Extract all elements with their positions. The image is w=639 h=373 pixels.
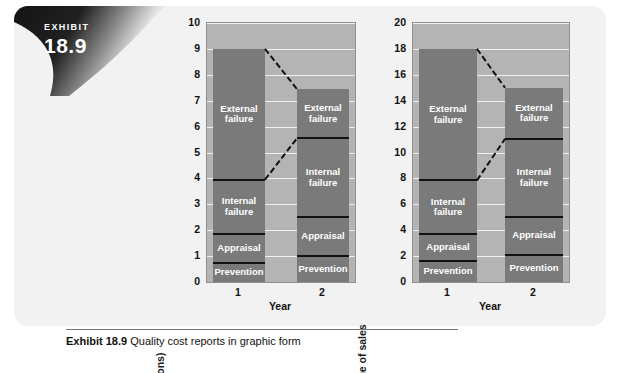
gridline — [207, 23, 355, 24]
segment-label: Internalfailure — [221, 196, 257, 217]
segment-internal-failure: Internalfailure — [297, 138, 349, 217]
y-tick-label: 8 — [378, 172, 406, 182]
bar-year-2: PreventionAppraisalInternalfailureExtern… — [297, 89, 349, 282]
connector-line — [477, 139, 505, 180]
segment-label: Prevention — [297, 264, 348, 275]
segment-external-failure: Externalfailure — [297, 89, 349, 138]
segment-label: Prevention — [422, 266, 473, 277]
y-tick-label: 18 — [378, 43, 406, 53]
y-tick-label: 2 — [172, 224, 200, 234]
y-tick-label: 8 — [172, 69, 200, 79]
segment-label: Appraisal — [511, 230, 556, 241]
y-tick-label: 12 — [378, 121, 406, 131]
bar-year-2: PreventionAppraisalInternalfailureExtern… — [505, 88, 563, 282]
y-tick-label: 1 — [172, 250, 200, 260]
connector-line — [477, 49, 505, 88]
chart-cost-millions: Quality cost (in £millions)PreventionApp… — [150, 22, 360, 321]
y-tick-label: 4 — [378, 224, 406, 234]
segment-label: Prevention — [508, 263, 559, 274]
segment-prevention: Prevention — [297, 256, 349, 282]
x-axis-title: Year — [206, 300, 354, 312]
segment-label: Externalfailure — [303, 103, 343, 124]
plot-area: PreventionAppraisalInternalfailureExtern… — [206, 22, 356, 283]
segment-appraisal: Appraisal — [213, 234, 265, 262]
segment-label: Externalfailure — [514, 103, 554, 124]
bar-year-1: PreventionAppraisalInternalfailureExtern… — [419, 49, 477, 282]
segment-appraisal: Appraisal — [505, 217, 563, 255]
y-tick-label: 6 — [172, 121, 200, 131]
y-tick-label: 6 — [378, 198, 406, 208]
y-tick-label: 14 — [378, 95, 406, 105]
y-tick-label: 4 — [172, 172, 200, 182]
segment-label: Externalfailure — [428, 104, 468, 125]
gridline — [413, 23, 569, 24]
y-tick-label: 16 — [378, 69, 406, 79]
exhibit-page: EXHIBIT 18.9 Quality cost (in £millions)… — [0, 0, 639, 373]
segment-external-failure: Externalfailure — [505, 88, 563, 139]
y-tick-label: 2 — [378, 250, 406, 260]
segment-label: Internalfailure — [305, 167, 341, 188]
segment-internal-failure: Internalfailure — [505, 139, 563, 217]
x-tick-label: 2 — [504, 286, 562, 298]
segment-prevention: Prevention — [213, 263, 265, 282]
connector-line — [265, 49, 297, 89]
x-tick-label: 1 — [212, 286, 264, 298]
y-tick-label: 0 — [172, 276, 200, 286]
segment-label: Appraisal — [216, 243, 261, 254]
y-tick-label: 9 — [172, 43, 200, 53]
segment-external-failure: Externalfailure — [419, 49, 477, 180]
segment-prevention: Prevention — [505, 255, 563, 282]
chart-cost-percent-of-sales: Quality cost as a percentage of salesPre… — [352, 22, 574, 321]
segment-label: Internalfailure — [430, 197, 466, 218]
exhibit-caption: Exhibit 18.9 Quality cost reports in gra… — [66, 334, 546, 349]
segment-appraisal: Appraisal — [419, 234, 477, 261]
segment-label: Appraisal — [300, 231, 345, 242]
segment-external-failure: Externalfailure — [213, 49, 265, 180]
x-tick-label: 1 — [418, 286, 476, 298]
segment-appraisal: Appraisal — [297, 217, 349, 256]
plot-area: PreventionAppraisalInternalfailureExtern… — [412, 22, 570, 283]
caption-text: Quality cost reports in graphic form — [130, 335, 301, 347]
y-tick-label: 5 — [172, 147, 200, 157]
segment-internal-failure: Internalfailure — [419, 180, 477, 234]
segment-label: Externalfailure — [219, 104, 259, 125]
bar-year-1: PreventionAppraisalInternalfailureExtern… — [213, 49, 265, 282]
connector-line — [265, 138, 297, 179]
caption-rule — [66, 329, 458, 330]
y-tick-label: 3 — [172, 198, 200, 208]
segment-internal-failure: Internalfailure — [213, 180, 265, 234]
x-tick-label: 2 — [296, 286, 348, 298]
x-axis-title: Year — [412, 300, 568, 312]
y-tick-label: 20 — [378, 17, 406, 27]
y-tick-label: 0 — [378, 276, 406, 286]
segment-prevention: Prevention — [419, 261, 477, 282]
y-tick-label: 10 — [378, 147, 406, 157]
segment-label: Prevention — [213, 267, 264, 278]
segment-label: Appraisal — [425, 242, 470, 253]
y-tick-label: 7 — [172, 95, 200, 105]
y-tick-label: 10 — [172, 17, 200, 27]
segment-label: Internalfailure — [516, 167, 552, 188]
caption-label: Exhibit 18.9 — [66, 335, 127, 347]
